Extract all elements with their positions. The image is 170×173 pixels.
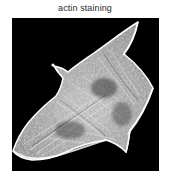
filopodium-tip xyxy=(51,63,54,66)
figure-panel-actin-staining: actin staining xyxy=(0,0,170,173)
micrograph-image-panel xyxy=(12,18,159,171)
figure-title: actin staining xyxy=(0,2,170,14)
actin-micrograph-svg xyxy=(12,18,159,171)
